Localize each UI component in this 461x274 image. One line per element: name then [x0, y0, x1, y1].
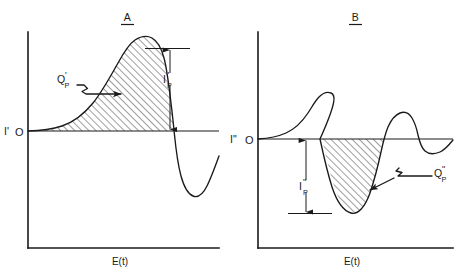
panel-a-y-symbol: I'	[4, 125, 9, 137]
panel-b-charge-label: Q " P	[434, 164, 447, 184]
panel-a-peak-subscript: P	[167, 81, 172, 90]
panel-b-charge-leader-squiggle	[396, 168, 432, 176]
panel-b-title: B	[352, 11, 359, 23]
panel-b: B Q " P I " P I" O	[230, 11, 453, 267]
panel-b-charge-prime: "	[442, 164, 445, 174]
panel-a-y-axis-label: I' O	[4, 125, 24, 138]
panel-a-peak-symbol: I	[163, 73, 166, 85]
panel-b-peak-symbol: I	[299, 180, 302, 192]
figure-container: A Q ' P I ' P I' O E	[0, 0, 461, 274]
panel-b-y-symbol: I"	[230, 133, 237, 145]
panel-a-shaded-charge-area	[28, 36, 174, 131]
panel-a-charge-prime: '	[65, 70, 67, 80]
panel-a-x-axis-label: E(t)	[112, 256, 128, 267]
panel-a-title: A	[124, 11, 131, 23]
panel-b-peak-current-label: I " P	[299, 177, 308, 198]
panel-a-zero-label: O	[15, 126, 24, 138]
panel-b-y-axis-label: I" O	[230, 133, 254, 146]
panel-b-x-axis-label: E(t)	[344, 256, 360, 267]
panel-b-zero-label: O	[245, 134, 254, 146]
panel-a-charge-label: Q ' P	[57, 70, 70, 90]
panel-b-peak-subscript: P	[303, 188, 308, 197]
panel-b-charge-subscript: P	[442, 175, 447, 184]
panel-b-peak-prime: "	[303, 177, 306, 187]
panel-a-charge-subscript: P	[65, 81, 70, 90]
voltammogram-figure: A Q ' P I ' P I' O E	[0, 0, 461, 274]
panel-a-peak-prime: '	[168, 70, 170, 80]
panel-a: A Q ' P I ' P I' O E	[4, 11, 219, 267]
